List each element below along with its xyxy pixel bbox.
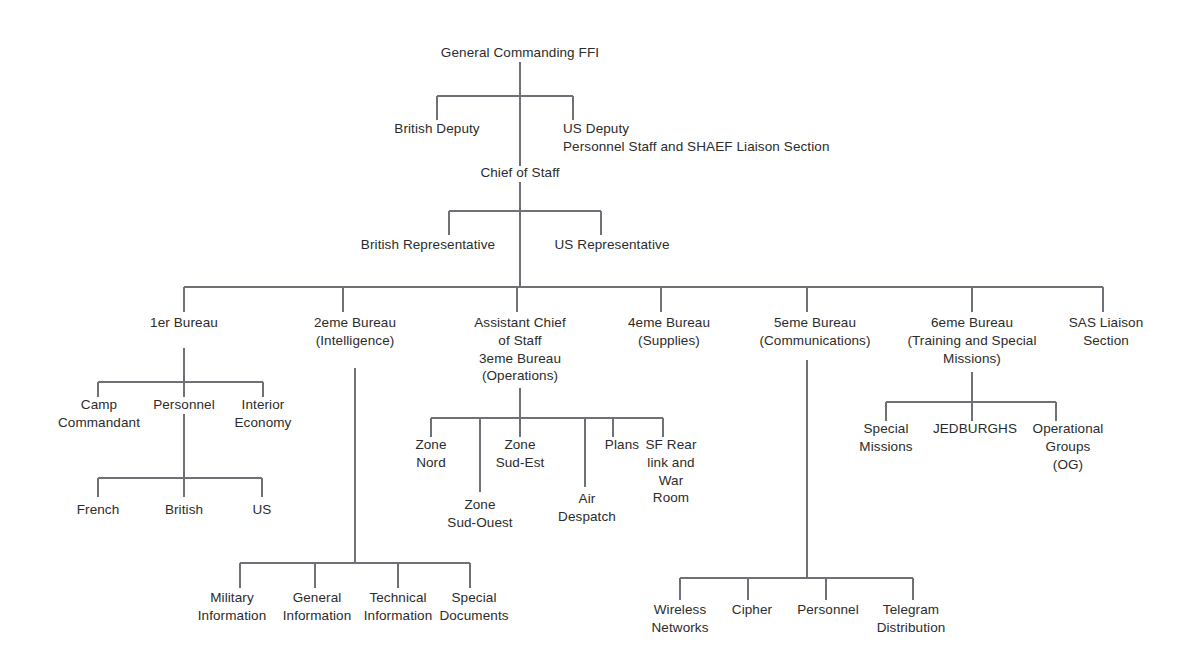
node-operational-groups: Operational Groups (OG) (1008, 420, 1128, 473)
node-zone-sud-ouest: Zone Sud-Ouest (425, 496, 535, 532)
node-zone-sud-est: Zone Sud-Est (470, 436, 570, 472)
node-british-deputy: British Deputy (347, 120, 527, 138)
node-sas-liaison-section: SAS Liaison Section (1034, 314, 1179, 350)
node-british-representative: British Representative (318, 236, 538, 254)
node-3eme-bureau-operations: Assistant Chief of Staff 3eme Bureau (Op… (430, 314, 610, 385)
node-us: US (212, 501, 312, 519)
node-french: French (48, 501, 148, 519)
node-us-representative: US Representative (512, 236, 712, 254)
node-chief-of-staff: Chief of Staff (420, 164, 620, 182)
node-general-commanding-ffi: General Commanding FFI (390, 44, 650, 62)
node-us-deputy: US Deputy Personnel Staff and SHAEF Liai… (563, 120, 963, 156)
node-telegram-distribution: Telegram Distribution (854, 601, 969, 637)
node-interior-economy: Interior Economy (208, 396, 318, 432)
node-zone-nord: Zone Nord (386, 436, 476, 472)
node-special-documents: Special Documents (419, 589, 529, 625)
node-1er-bureau: 1er Bureau (99, 314, 269, 332)
node-sf-rear-link-war-room: SF Rear link and War Room (631, 436, 711, 507)
node-2eme-bureau: 2eme Bureau (Intelligence) (270, 314, 440, 350)
org-chart: General Commanding FFI British Deputy US… (0, 0, 1187, 667)
node-air-despatch: Air Despatch (537, 490, 637, 526)
